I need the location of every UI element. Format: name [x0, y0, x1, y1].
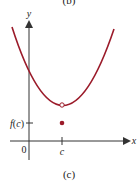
x-axis-label: x [131, 135, 137, 146]
origin-label: 0 [22, 144, 27, 155]
parabola-curve [12, 27, 114, 106]
y-tick-label: f(c) [10, 118, 24, 130]
x-tick-label: c [60, 146, 65, 157]
open-circle-hole [60, 103, 64, 107]
top-caption: (b) [63, 0, 76, 7]
graph-figure: (b) y x 0 c f(c) (c) [0, 0, 139, 185]
figure-caption: (c) [63, 168, 76, 181]
y-axis-label: y [26, 8, 32, 19]
filled-point-fc [60, 121, 65, 126]
